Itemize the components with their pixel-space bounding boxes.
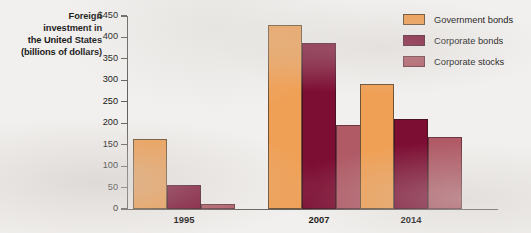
y-axis-tick-label: 100: [78, 161, 118, 171]
legend-item-corporate-bonds[interactable]: Corporate bonds: [403, 30, 513, 51]
y-axis-tick-mark: [121, 101, 127, 102]
y-axis-tick-label: 50: [78, 183, 118, 193]
y-axis-tick-label-text: 400: [78, 32, 118, 41]
bar-government-bonds-2014: [360, 84, 394, 209]
y-axis-tick-label: 250: [78, 97, 118, 107]
y-axis-tick-mark: [121, 144, 127, 145]
legend-item-government-bonds[interactable]: Government bonds: [403, 9, 513, 30]
y-axis-tick-label: $450: [78, 11, 118, 21]
y-axis-tick-label: 400: [78, 32, 118, 42]
bar-corporate-bonds-2014: [394, 119, 428, 209]
y-axis-tick-mark: [121, 58, 127, 59]
y-axis-tick-label-text: 0: [78, 204, 118, 213]
y-axis-tick-label-text: 250: [78, 97, 118, 106]
bar-corporate-stocks-2014: [428, 137, 462, 209]
legend-item-label: Corporate stocks: [434, 57, 504, 67]
x-axis-label-2007: 2007: [274, 214, 364, 225]
x-axis-label-2014: 2014: [366, 214, 456, 225]
y-axis-tick-mark: [121, 80, 127, 81]
y-axis-tick-mark: [121, 208, 127, 209]
legend-item-label: Government bonds: [434, 15, 513, 25]
x-axis-label-1995: 1995: [139, 214, 229, 225]
bar-corporate-stocks-1995: [201, 204, 235, 209]
bar-government-bonds-2007: [268, 25, 302, 209]
legend-swatch-icon: [403, 14, 425, 25]
y-axis-line: [127, 16, 128, 210]
y-axis-tick-label: 200: [78, 118, 118, 128]
y-axis-tick-label-text: 200: [78, 118, 118, 127]
y-axis-tick-label: 350: [78, 54, 118, 64]
bar-corporate-bonds-1995: [167, 185, 201, 209]
y-axis-tick-mark: [121, 15, 127, 16]
y-axis-tick-mark: [121, 166, 127, 167]
bar-corporate-bonds-2007: [302, 43, 336, 209]
y-axis-tick-mark: [121, 37, 127, 38]
y-axis-tick-label-text: 350: [78, 54, 118, 63]
y-axis-tick-mark: [121, 187, 127, 188]
legend-swatch-icon: [403, 35, 425, 46]
y-axis-tick-mark: [121, 123, 127, 124]
legend-item-label: Corporate bonds: [434, 36, 503, 46]
y-axis-tick-label-text: 150: [78, 140, 118, 149]
chart-legend: Government bonds Corporate bonds Corpora…: [403, 9, 513, 72]
x-axis-line: [127, 209, 498, 210]
legend-item-corporate-stocks[interactable]: Corporate stocks: [403, 51, 513, 72]
y-axis-tick-label: 150: [78, 140, 118, 150]
y-axis-tick-label-text: 100: [78, 161, 118, 170]
bar-chart: Foreign investment in the United States …: [0, 0, 531, 233]
y-axis-tick-label: 0: [78, 204, 118, 214]
bar-government-bonds-1995: [133, 139, 167, 209]
y-axis-tick-label-text: $450: [78, 11, 118, 20]
legend-swatch-icon: [403, 56, 425, 67]
y-axis-tick-label-text: 50: [78, 183, 118, 192]
y-axis-tick-label-text: 300: [78, 75, 118, 84]
y-axis-tick-label: 300: [78, 75, 118, 85]
